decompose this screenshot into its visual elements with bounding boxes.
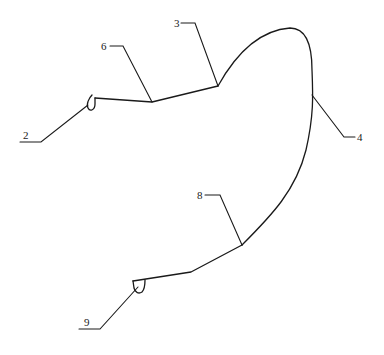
upper-hook — [87, 95, 95, 110]
leader-3 — [181, 23, 218, 86]
ref-label-3: 3 — [174, 18, 180, 29]
upper-arm — [95, 86, 218, 102]
ref-label-4: 4 — [357, 132, 363, 143]
wire-clip-diagram — [0, 0, 384, 355]
ref-label-8: 8 — [197, 190, 203, 201]
leader-2 — [20, 105, 88, 142]
ref-label-2: 2 — [23, 130, 29, 141]
ref-label-6: 6 — [101, 41, 107, 52]
main-curve — [218, 28, 313, 245]
ref-label-9: 9 — [84, 317, 90, 328]
leader-6 — [110, 46, 152, 102]
lower-arm — [133, 245, 242, 281]
leader-4 — [312, 95, 355, 137]
leader-8 — [205, 195, 242, 245]
